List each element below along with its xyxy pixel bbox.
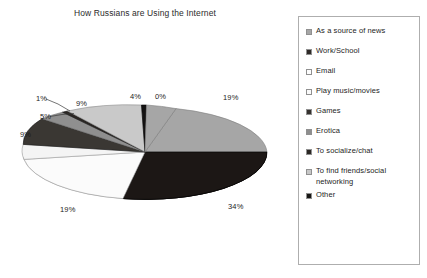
legend-item[interactable]: Other	[306, 190, 413, 201]
legend-item-label: Erotica	[316, 126, 340, 137]
legend-item-label: Play music/movies	[316, 86, 380, 97]
legend-swatch-icon	[306, 129, 312, 135]
legend-item[interactable]: To socialize/chat	[306, 146, 413, 157]
legend-item-label: To socialize/chat	[316, 146, 373, 157]
legend-item[interactable]: Erotica	[306, 126, 413, 137]
legend-swatch-icon	[306, 29, 312, 35]
legend-item-label: Work/School	[316, 46, 359, 57]
legend-item-label: To find friends/social networking	[316, 166, 413, 187]
legend-swatch-icon	[306, 169, 312, 175]
legend-swatch-icon	[306, 49, 312, 55]
pie-value-label: 1%	[36, 94, 47, 103]
pie-value-label: 19%	[223, 93, 239, 102]
legend-item-label: Other	[316, 190, 335, 201]
pie-value-label: 5%	[40, 112, 51, 121]
legend-item[interactable]: To find friends/social networking	[306, 166, 413, 187]
pie-value-label: 0%	[155, 92, 166, 101]
pie-value-label: 19%	[60, 205, 76, 214]
pie-chart-figure: How Russians are Using the Internet	[0, 0, 427, 278]
legend-swatch-icon	[306, 69, 312, 75]
legend-swatch-icon	[306, 149, 312, 155]
legend-item[interactable]: Games	[306, 106, 413, 117]
legend-item-label: Games	[316, 106, 341, 117]
legend-item-label: As a source of news	[316, 26, 385, 37]
legend-swatch-icon	[306, 109, 312, 115]
legend-item[interactable]: As a source of news	[306, 26, 413, 37]
pie-top-face	[22, 105, 267, 200]
pie-value-label: 4%	[130, 92, 141, 101]
legend-item[interactable]: Work/School	[306, 46, 413, 57]
chart-title: How Russians are Using the Internet	[0, 8, 290, 18]
chart-legend: As a source of news Work/School Email Pl…	[298, 16, 420, 265]
legend-item[interactable]: Play music/movies	[306, 86, 413, 97]
pie-value-label: 9%	[20, 130, 31, 139]
legend-item-label: Email	[316, 66, 335, 77]
legend-item[interactable]: Email	[306, 66, 413, 77]
legend-swatch-icon	[306, 89, 312, 95]
pie-value-label: 9%	[76, 99, 87, 108]
pie-value-label: 34%	[228, 202, 244, 211]
legend-swatch-icon	[306, 193, 312, 199]
pie-plot-area: 19% 34% 19% 9% 9% 5% 1% 4% 0%	[0, 80, 292, 230]
